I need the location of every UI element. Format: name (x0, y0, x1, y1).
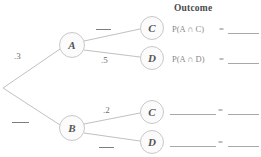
outcome-expression-a-and-c: P(A ∩ C) (172, 24, 204, 34)
outcome-answer-blank-b-and-c[interactable] (228, 114, 259, 115)
node-d-top-label: D (147, 52, 156, 64)
edge-blank-b-to-d[interactable] (99, 147, 114, 148)
outcome-answer-blank-a-and-c[interactable] (228, 33, 259, 34)
edge-blank-root-to-b[interactable] (12, 122, 29, 123)
edge-blank-a-to-c[interactable] (96, 29, 111, 30)
edge-label-a-to-d: .5 (101, 55, 108, 65)
outcome-expression-blank-b-and-d[interactable] (170, 146, 216, 147)
node-c-top-label: C (148, 22, 156, 34)
edge-label-b-to-c: .2 (103, 105, 110, 115)
node-a-label: A (67, 39, 75, 51)
edge-label-root-to-a: .3 (14, 51, 21, 61)
outcome-answer-blank-b-and-d[interactable] (228, 146, 259, 147)
edge-a-to-d (84, 50, 140, 57)
outcome-equals-a-and-d: = (219, 54, 224, 64)
edge-a-to-c (84, 29, 140, 41)
outcome-answer-blank-a-and-d[interactable] (228, 63, 259, 64)
probability-tree-diagram: A B C D C D .3 .5 .2 Outcome P(A ∩ C) = … (0, 0, 261, 157)
edge-root-to-b (3, 88, 60, 125)
outcome-equals-b-and-d: = (218, 137, 223, 147)
outcome-equals-b-and-c: = (218, 105, 223, 115)
outcome-expression-blank-b-and-c[interactable] (170, 114, 216, 115)
edge-b-to-c (84, 113, 140, 124)
node-c-bottom-label: C (148, 106, 156, 118)
outcome-column-header: Outcome (174, 3, 212, 13)
outcome-expression-a-and-d: P(A ∩ D) (172, 54, 205, 64)
node-d-bottom-label: D (147, 136, 156, 148)
edge-root-to-a (3, 49, 60, 88)
edge-b-to-d (84, 133, 140, 141)
node-b-label: B (67, 122, 75, 134)
outcome-equals-a-and-c: = (219, 24, 224, 34)
